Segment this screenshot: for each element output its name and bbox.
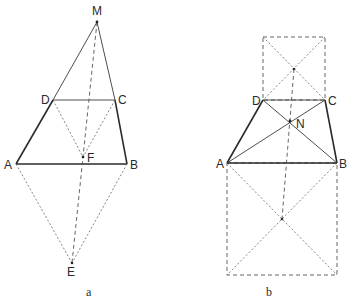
diagonal-ac [227,100,325,163]
diagonal-bd [263,100,337,163]
label-c: C [118,93,127,107]
side-bc [115,100,127,164]
side-bc [325,100,337,163]
label-a: A [216,157,224,171]
label-n: N [296,117,305,131]
figure-a: M D C A B F E a [4,4,138,299]
label-e: E [67,265,75,279]
line-ae [16,164,72,263]
figure-b: D C N A B b [216,37,347,299]
center-line [282,69,294,219]
point-n [289,120,292,123]
line-mc [97,22,115,100]
line-be [72,164,127,263]
point-m [96,21,99,24]
label-c: C [328,94,337,108]
label-m: M [92,4,102,18]
label-a: A [4,158,12,172]
trapezoid-construction-diagram: M D C A B F E a D C N A B b [0,0,349,301]
label-b: B [130,158,138,172]
line-df [53,100,83,157]
point-f [82,156,85,159]
label-f: F [87,151,94,165]
side-ad [16,100,53,164]
point-e [71,262,74,265]
caption-a: a [86,285,92,299]
caption-b: b [266,285,272,299]
label-d: D [252,94,261,108]
label-d: D [41,93,50,107]
label-b: B [339,157,347,171]
side-ad [227,100,263,163]
